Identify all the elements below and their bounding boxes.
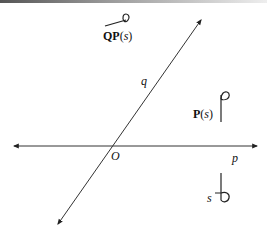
glyph-qp-of-s-icon bbox=[105, 14, 129, 26]
glyph-p-of-s-icon bbox=[221, 92, 229, 122]
glyph-s-icon bbox=[215, 173, 229, 202]
reflection-diagram: O p q s P(s) QP(s) bbox=[0, 0, 267, 236]
glyph-s-label: s bbox=[207, 191, 212, 205]
glyph-qp-of-s-label: QP(s) bbox=[103, 29, 132, 43]
paren-close: ) bbox=[128, 29, 132, 43]
origin-label: O bbox=[111, 149, 120, 163]
axis-q-label: q bbox=[141, 74, 147, 88]
paren-close: ) bbox=[209, 107, 213, 121]
qp-operator: QP bbox=[103, 29, 120, 43]
axis-p-label: p bbox=[231, 151, 238, 165]
glyph-p-of-s-label: P(s) bbox=[193, 107, 213, 121]
axis-q-line bbox=[58, 20, 201, 224]
p-operator: P bbox=[193, 107, 200, 121]
